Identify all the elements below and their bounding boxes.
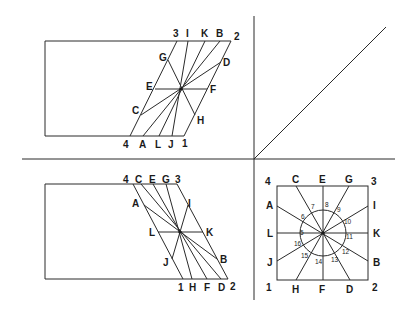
center-point <box>321 231 325 235</box>
label-K: K <box>206 227 214 238</box>
label-J: J <box>163 257 169 268</box>
circle-number-15: 15 <box>301 252 309 259</box>
circle-number-14: 14 <box>315 258 323 265</box>
label-H: H <box>189 282 196 293</box>
label-4: 4 <box>123 139 129 150</box>
circle-number-7: 7 <box>311 203 315 210</box>
circle-number-9: 9 <box>337 206 341 213</box>
label-H: H <box>197 115 204 126</box>
label-2: 2 <box>230 281 236 292</box>
label-2: 2 <box>234 31 240 42</box>
label-G: G <box>162 174 170 185</box>
label-C: C <box>132 105 139 116</box>
label-C: C <box>135 174 142 185</box>
circle-number-11: 11 <box>346 233 353 240</box>
label-F: F <box>210 84 216 95</box>
label-A: A <box>139 139 146 150</box>
label-J: J <box>267 257 273 268</box>
circle-number-10: 10 <box>344 218 352 225</box>
label-A: A <box>266 200 273 211</box>
circle-number-13: 13 <box>331 256 339 263</box>
panel-bottom-right: 4 C E G 3 A I L K J B 1 H F D 2 5 6 7 8 … <box>265 174 381 295</box>
label-J: J <box>168 139 174 150</box>
circle-number-6: 6 <box>301 213 305 220</box>
label-4: 4 <box>123 174 129 185</box>
label-D: D <box>346 284 353 295</box>
circle-number-16: 16 <box>294 240 302 247</box>
label-3: 3 <box>371 176 377 187</box>
label-B: B <box>220 254 227 265</box>
diagonal-line <box>254 27 386 159</box>
diagram-canvas: 3 I K B 2 G D E F C H 4 A L J 1 4 C E G … <box>0 0 410 317</box>
label-D: D <box>223 57 230 68</box>
label-D: D <box>218 282 225 293</box>
label-B: B <box>373 257 380 268</box>
circle-number-8: 8 <box>325 201 329 208</box>
label-F: F <box>319 284 325 295</box>
label-E: E <box>319 174 326 185</box>
label-E: E <box>149 174 156 185</box>
label-I: I <box>188 198 191 209</box>
label-L: L <box>149 227 155 238</box>
center-point <box>179 87 182 90</box>
center-point <box>178 230 181 233</box>
circle-number-5: 5 <box>300 229 304 236</box>
circle-number-12: 12 <box>342 248 350 255</box>
label-3: 3 <box>175 174 181 185</box>
label-2: 2 <box>372 282 378 293</box>
label-L: L <box>155 139 161 150</box>
label-G: G <box>345 174 353 185</box>
label-A: A <box>132 198 139 209</box>
label-K: K <box>201 28 209 39</box>
label-F: F <box>204 282 210 293</box>
label-K: K <box>373 228 381 239</box>
label-4: 4 <box>265 176 271 187</box>
panel-top-left: 3 I K B 2 G D E F C H 4 A L J 1 <box>45 28 240 150</box>
label-I: I <box>373 200 376 211</box>
panel-bottom-left: 4 C E G 3 A I L K J B 1 H F D 2 <box>45 174 236 293</box>
label-C: C <box>292 174 299 185</box>
label-3: 3 <box>173 28 179 39</box>
label-H: H <box>292 284 299 295</box>
label-1: 1 <box>178 282 184 293</box>
label-L: L <box>267 228 273 239</box>
label-1: 1 <box>266 282 272 293</box>
label-B: B <box>216 28 223 39</box>
panel-top-right <box>254 27 386 159</box>
label-I: I <box>186 28 189 39</box>
label-G: G <box>159 52 167 63</box>
label-E: E <box>146 81 153 92</box>
label-1: 1 <box>182 138 188 149</box>
